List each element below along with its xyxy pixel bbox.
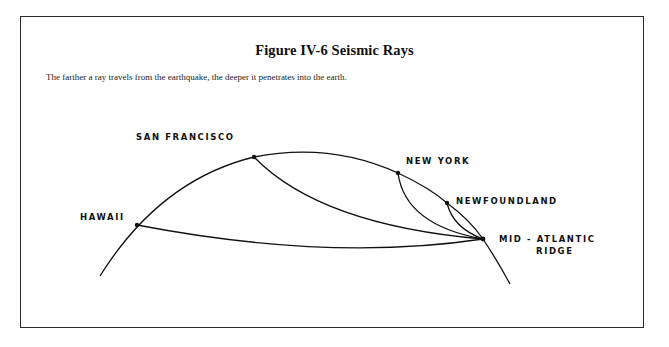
- ray-to-san-francisco: [254, 157, 483, 239]
- new-york-point: [396, 171, 400, 175]
- ray-to-hawaii: [137, 225, 483, 248]
- san-francisco-point: [252, 155, 256, 159]
- seismic-rays-diagram: HAWAII SAN FRANCISCO NEW YORK NEWFOUNDLA…: [0, 0, 669, 347]
- hawaii-point: [135, 223, 139, 227]
- earth-surface-arc: [100, 152, 510, 284]
- newfoundland-point: [445, 201, 449, 205]
- label-newfoundland: NEWFOUNDLAND: [456, 196, 558, 206]
- label-hawaii: HAWAII: [80, 212, 125, 222]
- label-new-york: NEW YORK: [406, 156, 470, 166]
- label-san-francisco: SAN FRANCISCO: [136, 132, 235, 142]
- mid-atlantic-ridge-point: [481, 237, 486, 242]
- label-ridge: RIDGE: [536, 246, 574, 256]
- label-mid-atlantic: MID - ATLANTIC: [499, 234, 596, 244]
- ray-to-newfoundland: [447, 203, 483, 239]
